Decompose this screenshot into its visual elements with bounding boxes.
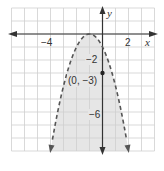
x-tick-label-neg4: −4 [41, 37, 53, 48]
x-axis-left-arrow-icon [8, 31, 17, 37]
y-axis-label: y [106, 7, 112, 19]
x-axis-label: x [144, 36, 150, 48]
y-tick-label-neg2: −2 [86, 54, 98, 65]
inequality-graph: −4 2 x y −2 −6 (0, −3) [0, 0, 164, 171]
x-axis-right-arrow-icon [149, 31, 158, 37]
test-point [100, 71, 104, 75]
point-label: (0, −3) [68, 75, 97, 86]
y-axis-up-arrow-icon [100, 6, 106, 14]
x-tick-label-2: 2 [125, 37, 131, 48]
x-axis [8, 31, 158, 37]
y-tick-label-neg6: −6 [89, 109, 101, 120]
